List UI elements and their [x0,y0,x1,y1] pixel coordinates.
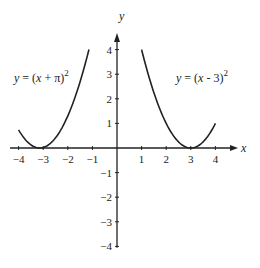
axes: x y [10,9,247,248]
x-tick-label: 4 [213,153,219,165]
y-tick-label: 3 [107,68,113,80]
y-tick-label: −2 [100,191,112,203]
y-tick-label: 2 [107,93,113,105]
y-tick-label: −1 [100,167,112,179]
y-axis-arrow [114,33,120,42]
chart: x y −4−3−2−112344321−1−2−3−4 y = (x + π)… [0,0,260,268]
label-x-plus-pi-squared: y = (x + π)2 [13,68,69,85]
y-tick-label: 1 [107,117,113,129]
curve-x-plus-pi-squared [19,49,89,148]
x-axis-arrow [230,145,238,151]
x-tick-label: 1 [139,153,145,165]
x-tick-label: 2 [163,153,169,165]
y-axis-label: y [118,9,125,23]
x-tick-label: −3 [37,153,49,165]
x-axis-label: x [240,141,247,155]
y-tick-label: 4 [107,44,113,56]
x-tick-label: −1 [87,153,99,165]
curve-labels: y = (x + π)2y = (x - 3)2 [13,68,228,85]
curve-x-minus-3-squared [142,50,216,148]
x-tick-label: 3 [188,153,194,165]
x-tick-label: −2 [62,153,74,165]
x-tick-label: −4 [13,153,25,165]
label-x-minus-3-squared: y = (x - 3)2 [175,68,228,85]
y-tick-label: −4 [100,240,112,252]
y-tick-label: −3 [100,216,112,228]
